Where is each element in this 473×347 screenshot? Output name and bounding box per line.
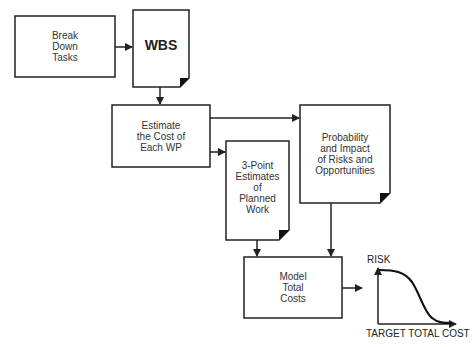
wbs-label: WBS [133, 10, 189, 80]
three-point-label: 3-Point Estimates of Planned Work [226, 141, 289, 233]
break-down-label: Break Down Tasks [15, 16, 115, 77]
probability-label: Probability and Impact of Risks and Oppo… [300, 105, 390, 203]
risk-curve [379, 270, 452, 323]
estimate-label: Estimate the Cost of Each WP [112, 105, 210, 167]
cost-axis-label: TARGET TOTAL COST [366, 328, 470, 339]
risk-axis-label: RISK [367, 254, 390, 265]
risk-chart [378, 268, 456, 324]
model-label: Model Total Costs [244, 257, 342, 318]
